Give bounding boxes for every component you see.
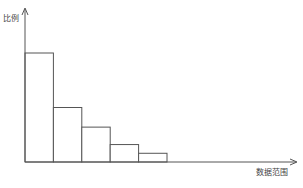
histogram-bar [53,108,81,163]
histogram-bar [25,53,53,162]
histogram-bar [139,153,167,162]
bars-group [25,53,167,162]
histogram-chart [0,0,303,188]
histogram-bar [110,145,138,162]
y-axis-label: 比例 [3,12,19,23]
x-axis-label: 数据范围 [256,166,288,177]
histogram-bar [82,127,110,162]
